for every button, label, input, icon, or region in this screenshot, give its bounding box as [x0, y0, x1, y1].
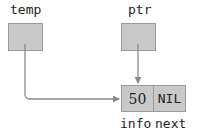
node-info-cell: 50	[121, 85, 154, 112]
node-next-cell: NIL	[153, 85, 186, 112]
pointer-arrows	[0, 0, 197, 135]
next-field-label: next	[155, 117, 186, 131]
info-field-label: info	[120, 117, 151, 131]
temp-arrow	[25, 44, 119, 99]
